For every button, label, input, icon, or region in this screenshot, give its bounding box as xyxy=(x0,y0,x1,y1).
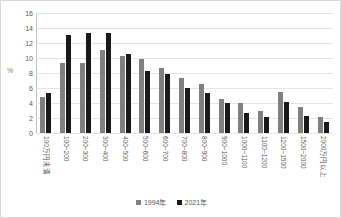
x-axis-tick-label-text: 1200~1500 xyxy=(280,136,287,169)
bar xyxy=(225,103,230,133)
x-axis-tick-label: 1000~1100 xyxy=(234,134,254,192)
bar-group xyxy=(76,13,96,133)
bar-chart: % 1614121086420 100万円未満100~200200~300300… xyxy=(0,0,341,218)
bar-group xyxy=(293,13,313,133)
x-axis-tick-label-text: 900~1000 xyxy=(221,136,228,165)
x-axis-tick-label-text: 400~500 xyxy=(122,136,129,162)
bar-group xyxy=(135,13,155,133)
x-axis-tick-label: 700~800 xyxy=(175,134,195,192)
y-axis-tick-label: 0 xyxy=(3,130,33,137)
y-axis-tick-label: 12 xyxy=(3,40,33,47)
bar xyxy=(100,50,105,133)
bar xyxy=(145,71,150,133)
x-axis-tick-label: 100万円未満 xyxy=(36,134,56,192)
bar xyxy=(298,107,303,133)
x-axis-tick-label-text: 300~400 xyxy=(102,136,109,162)
bar-group xyxy=(194,13,214,133)
bar xyxy=(205,93,210,133)
legend-entry[interactable]: 1994年 xyxy=(136,199,167,206)
x-axis-tick-label: 2000万円以上 xyxy=(313,134,333,192)
bar-group xyxy=(36,13,56,133)
bar-group xyxy=(274,13,294,133)
bar xyxy=(318,117,323,133)
x-axis-tick-label: 400~500 xyxy=(115,134,135,192)
y-axis-tick-label: 6 xyxy=(3,85,33,92)
x-axis-tick-label-text: 600~700 xyxy=(161,136,168,162)
x-axis-tick-label-text: 200~300 xyxy=(82,136,89,162)
x-axis-tick-label: 1500~2000 xyxy=(293,134,313,192)
bar-group xyxy=(313,13,333,133)
bar xyxy=(165,74,170,133)
bar xyxy=(264,117,269,134)
y-axis-tick-label: 16 xyxy=(3,10,33,17)
bar-group xyxy=(155,13,175,133)
y-axis-tick-label: 4 xyxy=(3,100,33,107)
x-axis-tick-label: 1200~1500 xyxy=(274,134,294,192)
x-axis-tick-label: 200~300 xyxy=(76,134,96,192)
bar-group xyxy=(234,13,254,133)
y-axis-tick-label: 10 xyxy=(3,55,33,62)
plot-area xyxy=(36,13,333,133)
legend-label: 1994年 xyxy=(144,199,167,206)
x-axis-tick-label: 500~600 xyxy=(135,134,155,192)
bar xyxy=(60,63,65,133)
legend-swatch-icon xyxy=(136,200,141,205)
x-axis-tick-label-text: 800~900 xyxy=(201,136,208,162)
bar xyxy=(244,113,249,133)
legend-label: 2021年 xyxy=(185,199,208,206)
chart-legend: 1994年2021年 xyxy=(1,199,341,206)
bar xyxy=(324,122,329,133)
bar xyxy=(86,33,91,133)
bar xyxy=(139,59,144,133)
bar xyxy=(185,88,190,133)
bar xyxy=(120,56,125,133)
x-axis-tick-label: 1100~1200 xyxy=(254,134,274,192)
bar-group xyxy=(56,13,76,133)
bar xyxy=(66,35,71,133)
x-axis-tick-label: 600~700 xyxy=(155,134,175,192)
bar xyxy=(159,68,164,133)
x-axis-tick-label-text: 2000万円以上 xyxy=(320,136,327,178)
bar xyxy=(278,92,283,133)
x-axis-tick-label-text: 1000~1100 xyxy=(241,136,248,168)
bar xyxy=(106,33,111,134)
legend-entry[interactable]: 2021年 xyxy=(177,199,208,206)
bar xyxy=(219,99,224,133)
legend-swatch-icon xyxy=(177,200,182,205)
x-axis-tick-label-text: 1500~2000 xyxy=(300,136,307,169)
bar xyxy=(126,54,131,133)
bar-group xyxy=(175,13,195,133)
bar xyxy=(238,103,243,133)
bar-group xyxy=(95,13,115,133)
y-axis-tick-labels: 1614121086420 xyxy=(1,13,33,133)
bar xyxy=(258,111,263,134)
bar-group xyxy=(214,13,234,133)
x-axis-tick-label: 800~900 xyxy=(194,134,214,192)
x-axis-tick-label-text: 700~800 xyxy=(181,136,188,162)
y-axis-tick-label: 14 xyxy=(3,25,33,32)
x-axis-tick-label-text: 100~200 xyxy=(62,136,69,162)
x-axis-tick-label-text: 100万円未満 xyxy=(43,136,50,175)
y-axis-tick-label: 8 xyxy=(3,70,33,77)
bar xyxy=(199,84,204,133)
y-axis-tick-label: 2 xyxy=(3,115,33,122)
bar-groups xyxy=(36,13,333,133)
x-axis-tick-labels: 100万円未満100~200200~300300~400400~500500~6… xyxy=(36,134,333,192)
bar xyxy=(46,93,51,134)
bar xyxy=(304,116,309,133)
x-axis-tick-label: 900~1000 xyxy=(214,134,234,192)
bar xyxy=(40,97,45,133)
x-axis-tick-label-text: 1100~1200 xyxy=(260,136,267,168)
bar xyxy=(179,78,184,133)
x-axis-tick-label-text: 500~600 xyxy=(142,136,149,162)
bar xyxy=(284,102,289,133)
bar xyxy=(80,63,85,134)
x-axis-tick-label: 300~400 xyxy=(95,134,115,192)
bar-group xyxy=(115,13,135,133)
bar-group xyxy=(254,13,274,133)
x-axis-tick-label: 100~200 xyxy=(56,134,76,192)
